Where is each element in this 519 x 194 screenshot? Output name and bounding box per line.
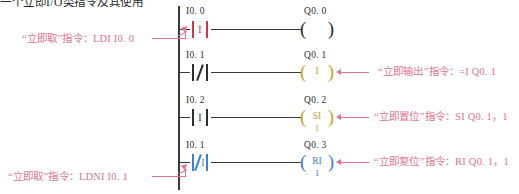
operand-label-rung1-contact: I0. 0	[186, 6, 205, 17]
contact-slash-icon	[196, 64, 203, 81]
wire-rung3-right	[211, 117, 301, 118]
contact-bar-right-icon	[206, 64, 208, 81]
operand-label-rung3-contact: I0. 2	[186, 95, 205, 106]
coil-inner-letter: I	[300, 65, 334, 78]
annotation-ldi-leader	[152, 38, 186, 39]
contact-i0-1-normally-closed[interactable]	[189, 64, 211, 81]
coil-q0-2-set-immediate[interactable]: ( ) SI 1	[300, 108, 334, 127]
wire-rung1-right	[211, 29, 301, 30]
coil-inner-letter: SI	[300, 110, 334, 123]
wire-rung4-right	[211, 162, 301, 163]
contact-i0-2-immediate[interactable]: I	[189, 109, 211, 126]
operand-label-rung2-contact: I0. 1	[186, 50, 205, 61]
annotation-ldi-text: “立即取”指令：LDI I0. 0	[22, 32, 134, 45]
operand-label-rung1-coil: Q0. 0	[304, 6, 327, 17]
contact-i0-0-immediate[interactable]: I	[189, 21, 211, 38]
annotation-ldi-arrow-icon	[181, 24, 189, 32]
contact-immediate-letter: I	[195, 155, 211, 170]
wire-rung2-right	[211, 72, 301, 73]
operand-label-rung3-coil: Q0. 2	[304, 95, 327, 106]
operand-label-rung2-coil: Q0. 1	[304, 50, 327, 61]
annotation-imm-out-text: “立即输出”指令：=I Q0. 1	[378, 65, 496, 78]
annotation-imm-reset-leader	[341, 162, 369, 163]
coil-paren-right-icon: )	[328, 19, 334, 38]
contact-i0-1-normally-closed-immediate[interactable]: I	[189, 154, 211, 171]
annotation-imm-set-leader	[341, 117, 369, 118]
coil-count-value: 1	[300, 168, 334, 179]
ladder-diagram-canvas: 一个立即I/O类指令及其使用 I0. 0 I Q0. 0 ( ) “立即取”指令…	[0, 0, 519, 194]
operand-label-rung4-contact: I0. 1	[186, 140, 205, 151]
coil-inner-letter: RI	[300, 155, 334, 168]
operand-label-rung4-coil: Q0. 3	[304, 140, 327, 151]
annotation-imm-set-text: “立即置位”指令：SI Q0. 1，1	[374, 110, 508, 123]
annotation-ldni-text: “立即取”指令：LDNI I0. 1	[8, 170, 128, 183]
annotation-imm-out-leader	[341, 72, 369, 73]
contact-immediate-letter: I	[189, 110, 211, 125]
page-header-cut-text: 一个立即I/O类指令及其使用	[0, 0, 300, 7]
annotation-imm-reset-text: “立即复位”指令：RI Q0. 1，1	[374, 155, 509, 168]
contact-immediate-letter: I	[189, 22, 211, 37]
contact-bar-left-icon	[192, 64, 194, 81]
coil-q0-3-reset-immediate[interactable]: ( ) RI 1	[300, 153, 334, 172]
coil-q0-1-immediate[interactable]: ( ) I	[300, 63, 334, 82]
coil-count-value: 1	[300, 123, 334, 134]
coil-q0-0[interactable]: ( )	[300, 20, 334, 39]
coil-paren-left-icon: (	[300, 19, 306, 38]
annotation-ldni-leader	[152, 176, 186, 177]
